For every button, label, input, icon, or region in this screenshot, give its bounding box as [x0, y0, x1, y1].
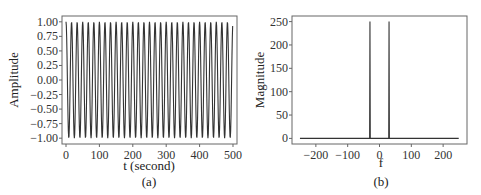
x-tick-label: 0 [63, 148, 69, 162]
x-tick-label: 100 [90, 148, 108, 162]
x-tick-label: −100 [335, 148, 360, 162]
time-domain-plot: 0100200300400500 1.000.750.500.250.00−0.… [6, 15, 242, 189]
y-tick-label: 0.25 [37, 58, 58, 72]
y-tick-label: −1.00 [30, 131, 58, 145]
y-tick-label: 100 [270, 85, 288, 99]
x-tick-label: 200 [434, 148, 452, 162]
panel-label-a: (a) [142, 174, 156, 189]
x-tick-label: −200 [303, 148, 328, 162]
y-tick-label: 0.75 [37, 29, 58, 43]
y-tick-label: −0.50 [30, 102, 58, 116]
frequency-domain-plot: −200−1000100200 250200150100500 f Magnit… [252, 15, 467, 189]
y-tick-label: 0.00 [37, 73, 58, 87]
figure: 0100200300400500 1.000.750.500.250.00−0.… [0, 0, 481, 195]
y-tick-label: 0 [282, 131, 288, 145]
y-axis-label-b: Magnitude [252, 52, 267, 109]
x-axis-ticks-b: −200−1000100200 [303, 144, 452, 162]
y-tick-label: 50 [276, 108, 288, 122]
y-axis-label-a: Amplitude [6, 52, 21, 108]
y-tick-label: 250 [270, 15, 288, 29]
panel-label-b: (b) [373, 174, 388, 189]
y-tick-label: 0.50 [37, 44, 58, 58]
y-axis-ticks-a: 1.000.750.500.250.00−0.25−0.50−0.75−1.00 [30, 15, 62, 145]
plot-frame-a [62, 16, 237, 144]
plot-frame-b [292, 16, 467, 144]
x-axis-label-b: f [379, 155, 384, 170]
y-tick-label: 1.00 [37, 15, 58, 29]
y-tick-label: 150 [270, 61, 288, 75]
x-tick-label: 400 [191, 148, 209, 162]
x-axis-label-a: t (second) [123, 158, 175, 173]
y-tick-label: −0.25 [30, 88, 58, 102]
x-tick-label: 100 [402, 148, 420, 162]
y-axis-ticks-b: 250200150100500 [270, 15, 292, 146]
x-tick-label: 500 [224, 148, 242, 162]
y-tick-label: −0.75 [30, 117, 58, 131]
y-tick-label: 200 [270, 38, 288, 52]
